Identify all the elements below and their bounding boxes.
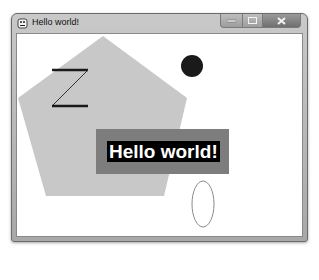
hello-banner: Hello world! <box>96 129 229 174</box>
close-icon <box>277 17 286 25</box>
hello-text: Hello world! <box>107 141 220 162</box>
window-title: Hello world! <box>32 17 79 27</box>
client-area[interactable]: Hello world! <box>16 33 303 237</box>
close-button[interactable] <box>263 14 301 28</box>
ellipse-outline <box>192 181 214 227</box>
minimize-icon <box>227 19 236 23</box>
black-circle <box>181 55 203 77</box>
window-controls <box>220 14 301 29</box>
app-icon <box>17 17 28 29</box>
minimize-button[interactable] <box>220 14 243 28</box>
maximize-button[interactable] <box>243 14 263 28</box>
app-window: Hello world! Hello world! <box>11 13 308 242</box>
maximize-icon <box>248 17 257 24</box>
title-bar[interactable]: Hello world! <box>12 14 307 33</box>
